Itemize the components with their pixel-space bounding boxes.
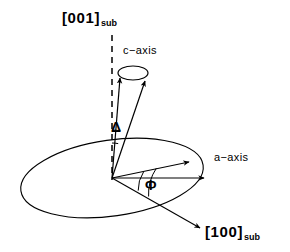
substrate-normal-label-text: [001] (62, 9, 100, 26)
substrate-inplane-label: [100]sub (205, 224, 260, 242)
substrate-inplane-label-subscript: sub (243, 232, 260, 242)
delta-angle-label: Δ (111, 120, 121, 134)
phi-angle-label: Φ (145, 178, 157, 192)
substrate-normal-label: [001]sub (62, 10, 117, 28)
substrate-inplane-label-text: [100] (205, 223, 243, 240)
substrate-normal-label-subscript: sub (100, 18, 117, 28)
orientation-diagram-figure: [001]sub c−axis a−axis [100]sub Δ Φ (0, 0, 290, 252)
a-axis-label: a−axis (214, 152, 249, 163)
a-axis-vectors (112, 162, 204, 178)
c-axis-label: c−axis (123, 45, 157, 56)
diagram-canvas (0, 0, 290, 252)
